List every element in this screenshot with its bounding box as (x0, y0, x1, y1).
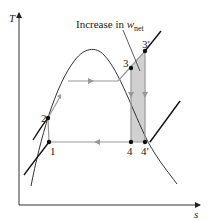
annotation-text: Increase in wnet (76, 18, 145, 33)
arrow-icon (94, 139, 100, 145)
label-3-prime: 3′ (142, 38, 150, 50)
label-4-prime: 4′ (141, 145, 149, 157)
s-axis-label: s (194, 208, 198, 220)
isobar-low-left (24, 142, 49, 175)
t-axis-label: T (9, 12, 16, 24)
isobar-low-right (150, 101, 180, 142)
arrow-icon (88, 78, 94, 84)
point-1 (47, 140, 51, 144)
label-3: 3 (123, 57, 129, 69)
point-3 (129, 66, 133, 70)
ts-diagram: T s Increase in wnet 2 1 3 3′ 4 4′ (0, 0, 208, 221)
pump-process (48, 118, 49, 142)
saturation-dome (31, 49, 177, 186)
label-1: 1 (50, 145, 56, 157)
point-4 (129, 140, 133, 144)
label-2: 2 (41, 112, 47, 124)
label-4: 4 (127, 145, 133, 157)
point-4-prime (143, 140, 147, 144)
